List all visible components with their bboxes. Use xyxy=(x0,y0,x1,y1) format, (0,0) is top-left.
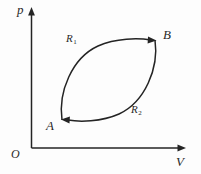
path-R2-curve xyxy=(68,40,156,121)
point-label-b: B xyxy=(163,28,171,41)
pressure-axis-arrowhead xyxy=(28,7,35,16)
path-label-r2-base: R xyxy=(131,103,138,115)
path-label-r2-subscript: 2 xyxy=(138,109,142,117)
point-label-a: A xyxy=(46,119,54,132)
path-label-r1-subscript: 1 xyxy=(73,38,77,46)
path-label-r1: R1 xyxy=(66,33,76,44)
pv-diagram-figure: p V O A B R1 R2 xyxy=(0,0,201,174)
path-label-r1-base: R xyxy=(66,32,73,44)
pressure-axis-label: p xyxy=(17,3,24,16)
volume-axis-label: V xyxy=(176,155,184,168)
path-label-r2: R2 xyxy=(131,104,141,115)
volume-axis-arrowhead xyxy=(178,145,187,152)
origin-label: O xyxy=(11,148,20,160)
